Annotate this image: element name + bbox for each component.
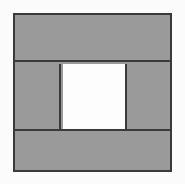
figure-canvas: Shaded square frame with unshaded center [0, 0, 185, 184]
middle-row [15, 64, 170, 129]
unshaded-region-center-square [63, 64, 125, 129]
shaded-region-top-band [15, 15, 170, 62]
shaded-region-right-column [125, 64, 170, 129]
figure-title: Shaded square frame with unshaded center [0, 0, 1, 1]
shaded-region-left-column [15, 64, 61, 129]
shaded-region-bottom-band [15, 129, 170, 170]
outer-square [13, 13, 172, 172]
